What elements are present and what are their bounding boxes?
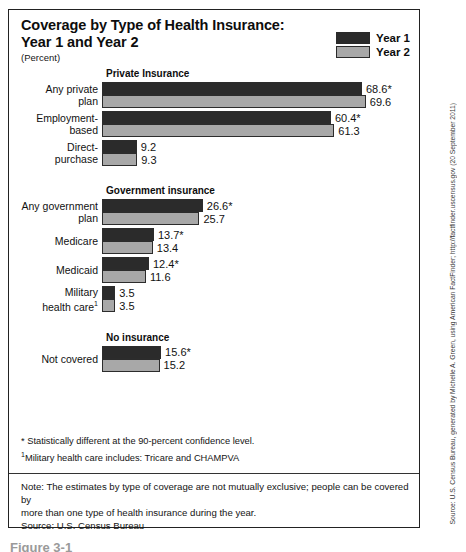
bar-year-2 xyxy=(102,299,115,312)
legend-swatch-icon xyxy=(336,32,370,44)
page-title-line-1: Coverage by Type of Health Insurance: xyxy=(21,17,311,34)
note-line-2: more than one type of health insurance d… xyxy=(21,506,409,519)
bar-row: 3.5 xyxy=(102,286,419,299)
bar-row: 26.6* xyxy=(102,199,419,212)
bar-year-1 xyxy=(102,346,161,359)
bar-year-2 xyxy=(102,124,334,137)
bar-value-label: 9.2 xyxy=(141,141,156,153)
bar-row: 68.6* xyxy=(102,82,419,95)
bar-year-1 xyxy=(102,111,331,124)
bar-value-label: 15.6* xyxy=(165,346,191,358)
category-label: Any governmentplan xyxy=(9,200,102,224)
bar-year-2 xyxy=(102,95,366,108)
caption-fragment: Figure 3-1 xyxy=(10,540,230,552)
bar-value-label: 15.2 xyxy=(164,359,185,371)
bar-group: Not covered15.6*15.2 xyxy=(9,346,419,372)
category-label: Medicare xyxy=(9,235,102,247)
legend-swatch-icon xyxy=(336,46,370,58)
bar-row: 12.4* xyxy=(102,257,419,270)
page-title-line-2: Year 1 and Year 2 xyxy=(21,34,311,51)
footnote-statistical: * Statistically different at the 90-perc… xyxy=(21,435,409,448)
bar-row: 9.3 xyxy=(102,153,419,166)
bar-row: 3.5 xyxy=(102,299,419,312)
bar-row: 61.3 xyxy=(102,124,419,137)
category-label: Medicaid xyxy=(9,264,102,276)
bar-year-1 xyxy=(102,228,154,241)
bar-value-label: 25.7 xyxy=(203,213,224,225)
bar-value-label: 13.7* xyxy=(158,229,184,241)
bar-row: 25.7 xyxy=(102,212,419,225)
bar-pair: 26.6*25.7 xyxy=(102,199,419,225)
bar-value-label: 3.5 xyxy=(119,287,134,299)
bar-value-label: 12.4* xyxy=(153,258,179,270)
section-gap xyxy=(9,169,419,185)
bar-value-label: 60.4* xyxy=(335,112,361,124)
bar-value-label: 9.3 xyxy=(141,154,156,166)
bar-value-label: 61.3 xyxy=(338,125,359,137)
bar-pair: 15.6*15.2 xyxy=(102,346,419,372)
bar-value-label: 68.6* xyxy=(366,83,392,95)
note-line-1: Note: The estimates by type of coverage … xyxy=(21,480,409,506)
bar-group: Medicare13.7*13.4 xyxy=(9,228,419,254)
bar-value-label: 26.6* xyxy=(207,200,233,212)
footnote-military-text: Military health care includes: Tricare a… xyxy=(25,453,239,463)
bar-pair: 12.4*11.6 xyxy=(102,257,419,283)
bar-group: Any privateplan68.6*69.6 xyxy=(9,82,419,108)
bar-year-2 xyxy=(102,270,146,283)
source-credit: Source: U.S. Census Bureau, generated by… xyxy=(439,0,465,552)
units-label: (Percent) xyxy=(21,52,311,64)
category-label: Direct-purchase xyxy=(9,141,102,165)
bar-year-1 xyxy=(102,286,115,299)
bar-row: 15.2 xyxy=(102,359,419,372)
bar-row: 11.6 xyxy=(102,270,419,283)
bar-group: Direct-purchase9.29.3 xyxy=(9,140,419,166)
bar-value-label: 13.4 xyxy=(157,242,178,254)
bar-year-1 xyxy=(102,199,203,212)
chart-section: No insuranceNot covered15.6*15.2 xyxy=(9,332,419,372)
source-credit-text: Source: U.S. Census Bureau, generated by… xyxy=(449,103,456,524)
bar-row: 15.6* xyxy=(102,346,419,359)
category-label: Employment-based xyxy=(9,112,102,136)
note-divider xyxy=(9,473,419,474)
footnote-military: 1Military health care includes: Tricare … xyxy=(21,448,409,465)
footnotes-block: * Statistically different at the 90-perc… xyxy=(21,435,409,465)
section-heading: Private Insurance xyxy=(106,68,419,79)
chart-section: Private InsuranceAny privateplan68.6*69.… xyxy=(9,68,419,166)
bar-year-2 xyxy=(102,359,160,372)
bar-pair: 13.7*13.4 xyxy=(102,228,419,254)
bar-pair: 9.29.3 xyxy=(102,140,419,166)
bar-row: 9.2 xyxy=(102,140,419,153)
bar-pair: 68.6*69.6 xyxy=(102,82,419,108)
bar-value-label: 3.5 xyxy=(119,300,134,312)
legend-item-2: Year 2 xyxy=(336,46,410,58)
chart-plot-area: Private InsuranceAny privateplan68.6*69.… xyxy=(9,68,419,375)
bar-year-2 xyxy=(102,241,153,254)
bar-group: Any governmentplan26.6*25.7 xyxy=(9,199,419,225)
figure-frame: Coverage by Type of Health Insurance: Ye… xyxy=(8,9,420,528)
section-heading: No insurance xyxy=(106,332,419,343)
category-label: Militaryhealth care1 xyxy=(9,286,102,313)
bar-year-2 xyxy=(102,153,137,166)
bar-year-1 xyxy=(102,257,149,270)
bar-year-1 xyxy=(102,140,137,153)
chart-legend: Year 1Year 2 xyxy=(336,32,410,58)
bar-pair: 3.53.5 xyxy=(102,286,419,312)
bar-group: Medicaid12.4*11.6 xyxy=(9,257,419,283)
category-label: Not covered xyxy=(9,353,102,365)
bar-group: Militaryhealth care13.53.5 xyxy=(9,286,419,313)
bar-group: Employment-based60.4*61.3 xyxy=(9,111,419,137)
section-heading: Government insurance xyxy=(106,185,419,196)
bar-row: 60.4* xyxy=(102,111,419,124)
note-source: Source: U.S. Census Bureau xyxy=(21,519,409,532)
bar-year-1 xyxy=(102,82,362,95)
bar-value-label: 11.6 xyxy=(150,271,171,283)
bar-row: 13.4 xyxy=(102,241,419,254)
bar-row: 69.6 xyxy=(102,95,419,108)
chart-section: Government insuranceAny governmentplan26… xyxy=(9,185,419,313)
note-block: Note: The estimates by type of coverage … xyxy=(21,480,409,532)
section-gap xyxy=(9,316,419,332)
title-block: Coverage by Type of Health Insurance: Ye… xyxy=(21,17,311,64)
bar-row: 13.7* xyxy=(102,228,419,241)
legend-label: Year 2 xyxy=(376,46,410,58)
legend-item-1: Year 1 xyxy=(336,32,410,44)
